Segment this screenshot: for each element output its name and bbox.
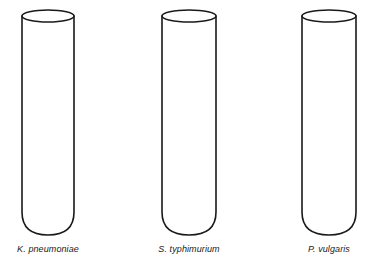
test-tube-figure: K. pneumoniae S. typhimurium P. vulgaris	[0, 0, 377, 269]
tube-1-body	[22, 16, 74, 235]
test-tube-3[interactable]	[302, 10, 356, 235]
tube-3-rim	[302, 10, 356, 22]
tube-1-rim	[22, 10, 74, 22]
tube-2-rim	[162, 10, 216, 22]
test-tube-2[interactable]	[162, 10, 216, 235]
test-tube-illustration	[0, 0, 377, 269]
tube-label-2: S. typhimurium	[141, 244, 237, 255]
tube-label-3: P. vulgaris	[281, 244, 377, 255]
tube-2-body	[162, 16, 216, 235]
test-tube-1[interactable]	[22, 10, 74, 235]
tube-label-1: K. pneumoniae	[0, 244, 96, 255]
tube-3-body	[302, 16, 356, 235]
